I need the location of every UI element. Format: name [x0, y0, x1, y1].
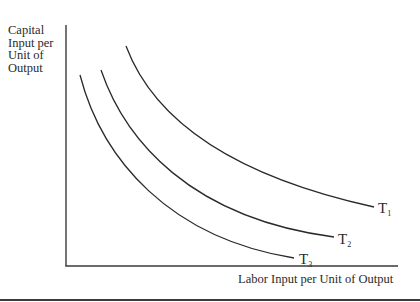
isoquant-diagram: T1 T2 T3: [0, 0, 420, 302]
x-axis-label: Labor Input per Unit of Output: [238, 272, 393, 287]
curve-label-t1: T1: [378, 200, 391, 218]
bottom-divider: [0, 299, 420, 301]
curve-label-t2: T2: [338, 231, 351, 249]
curve-t1: [126, 46, 374, 207]
curve-t2: [101, 70, 334, 237]
curve-label-t3: T3: [299, 251, 312, 269]
curve-t3: [80, 75, 294, 258]
